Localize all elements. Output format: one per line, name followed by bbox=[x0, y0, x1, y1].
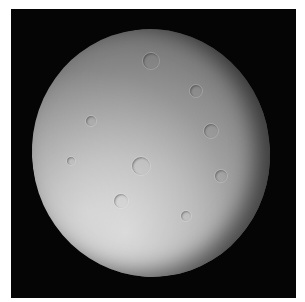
crater bbox=[214, 169, 228, 183]
space-background bbox=[11, 9, 296, 298]
crater bbox=[85, 115, 97, 127]
crater bbox=[189, 84, 203, 98]
crater bbox=[131, 156, 151, 176]
crater bbox=[113, 193, 129, 209]
crater bbox=[66, 156, 76, 166]
crater bbox=[180, 210, 192, 222]
crater bbox=[203, 123, 219, 139]
crater bbox=[142, 52, 160, 70]
